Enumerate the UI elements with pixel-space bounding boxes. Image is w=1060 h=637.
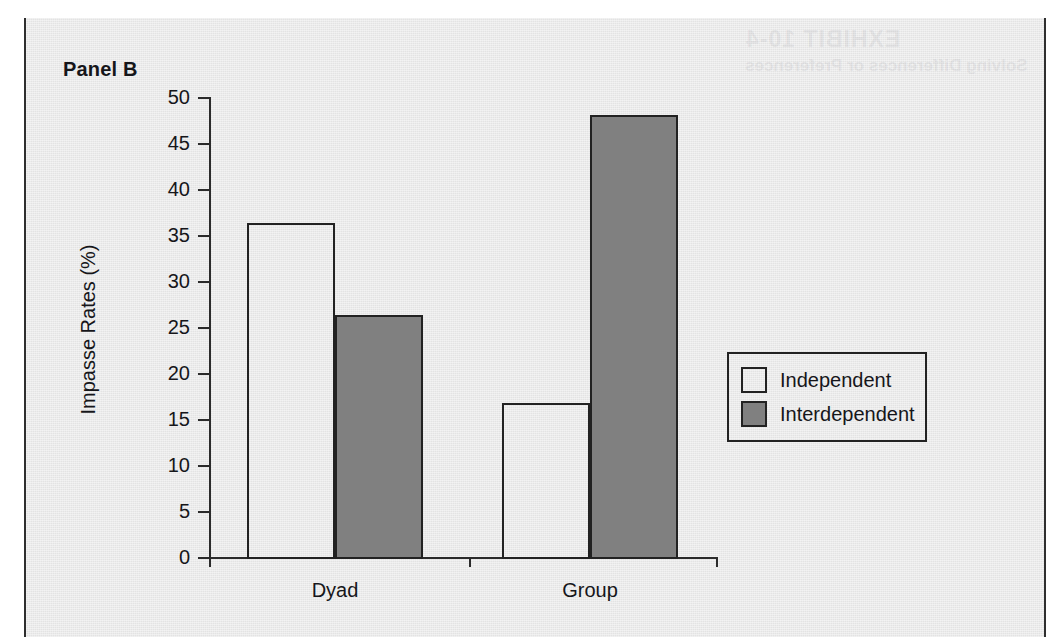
bar-dyad-interdependent <box>335 315 423 559</box>
y-tick-mark <box>198 419 209 421</box>
y-tick-mark <box>198 143 209 145</box>
legend-label-independent: Independent <box>780 370 891 390</box>
y-tick-label: 45 <box>146 133 190 153</box>
bar-dyad-independent <box>247 223 335 559</box>
y-tick-mark <box>198 327 209 329</box>
y-tick-mark <box>198 281 209 283</box>
legend-swatch-interdependent-icon <box>741 401 767 427</box>
y-tick-label: 35 <box>146 225 190 245</box>
y-tick-label: 25 <box>146 317 190 337</box>
x-axis-label-dyad: Dyad <box>265 579 405 602</box>
chart-plot-area: Impasse Rates (%) 05101520253035404550 D… <box>26 18 1048 637</box>
legend-label-interdependent: Interdependent <box>780 404 915 424</box>
chart-legend: Independent Interdependent <box>727 352 927 442</box>
y-tick-mark <box>198 97 209 99</box>
y-tick-label: 30 <box>146 271 190 291</box>
legend-swatch-independent-icon <box>741 367 767 393</box>
y-tick-mark <box>198 373 209 375</box>
bar-group-independent <box>502 403 590 559</box>
y-axis-title: Impasse Rates (%) <box>77 200 100 460</box>
y-tick-label: 10 <box>146 455 190 475</box>
x-tick-mark <box>469 557 471 567</box>
bar-group-interdependent <box>590 115 678 559</box>
y-tick-label: 0 <box>146 547 190 567</box>
y-tick-label: 20 <box>146 363 190 383</box>
x-tick-mark <box>209 557 211 567</box>
legend-item-independent: Independent <box>741 363 911 397</box>
figure-root: EXHIBIT 10-4 Solving Differences or Pref… <box>0 0 1060 637</box>
y-axis-line <box>209 97 211 557</box>
y-tick-label: 15 <box>146 409 190 429</box>
y-tick-mark <box>198 465 209 467</box>
y-tick-mark <box>198 511 209 513</box>
legend-item-interdependent: Interdependent <box>741 397 911 431</box>
y-tick-mark <box>198 189 209 191</box>
scanned-panel-background: EXHIBIT 10-4 Solving Differences or Pref… <box>24 18 1046 637</box>
y-tick-label: 50 <box>146 87 190 107</box>
y-tick-label: 40 <box>146 179 190 199</box>
y-tick-label: 5 <box>146 501 190 521</box>
x-tick-mark <box>716 557 718 567</box>
x-axis-label-group: Group <box>520 579 660 602</box>
y-tick-mark <box>198 235 209 237</box>
y-tick-mark <box>198 557 209 559</box>
